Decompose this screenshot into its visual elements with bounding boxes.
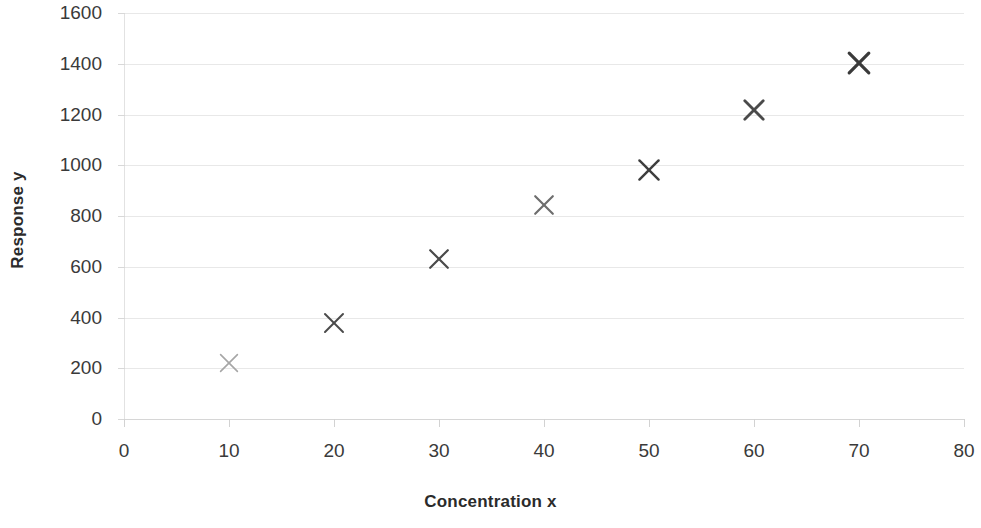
gridline-y [124,216,964,217]
gridline-y [124,267,964,268]
y-tick-mark [118,216,125,217]
y-tick-label: 400 [70,307,102,329]
y-tick-label: 1200 [60,104,102,126]
scatter-chart: Response y 02004006008001000120014001600… [0,0,981,528]
data-point-marker [637,158,661,182]
x-tick-label: 30 [428,440,449,462]
x-axis-title: Concentration x [0,492,981,512]
x-tick-label: 50 [638,440,659,462]
x-tick-mark [439,419,440,427]
x-tick-mark [124,419,125,427]
y-tick-mark [118,115,125,116]
y-tick-mark [118,64,125,65]
x-tick-mark [754,419,755,427]
y-axis-title: Response y [0,0,36,440]
x-tick-label: 80 [953,440,974,462]
gridline-y [124,115,964,116]
x-tick-label: 40 [533,440,554,462]
data-point-marker [323,312,345,334]
y-tick-label: 600 [70,256,102,278]
data-point-marker [742,98,766,122]
data-point-marker [533,194,555,216]
x-tick-label: 60 [743,440,764,462]
gridline-y [124,318,964,319]
y-tick-mark [118,368,125,369]
y-tick-mark [118,165,125,166]
x-tick-label: 10 [218,440,239,462]
x-tick-label: 0 [119,440,130,462]
gridline-y [124,165,964,166]
y-tick-label: 1400 [60,53,102,75]
y-tick-label: 200 [70,357,102,379]
gridline-y [124,64,964,65]
x-tick-label: 70 [848,440,869,462]
x-tick-label: 20 [323,440,344,462]
x-tick-mark [544,419,545,427]
y-axis-title-label: Response y [8,171,28,268]
gridline-y [124,13,964,14]
y-tick-mark [118,13,125,14]
x-tick-mark [964,419,965,427]
x-tick-mark [229,419,230,427]
x-tick-mark [334,419,335,427]
x-tick-mark [859,419,860,427]
y-tick-mark [118,318,125,319]
x-axis-tick-labels: 01020304050607080 [0,440,981,474]
y-tick-label: 800 [70,205,102,227]
y-tick-label: 1600 [60,2,102,24]
y-tick-label: 1000 [60,154,102,176]
x-tick-mark [649,419,650,427]
y-axis-tick-labels: 02004006008001000120014001600 [36,0,110,440]
y-tick-label: 0 [91,408,102,430]
gridline-y [124,368,964,369]
data-point-marker [219,353,239,373]
plot-area [124,13,964,419]
y-tick-mark [118,267,125,268]
